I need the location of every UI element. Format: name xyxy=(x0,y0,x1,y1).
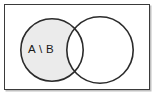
figure-frame: A \ B xyxy=(4,4,150,90)
venn-diagram-canvas: A \ B xyxy=(5,5,149,89)
label-a-minus-b: A \ B xyxy=(28,43,54,55)
venn-diagram-figure: A \ B xyxy=(0,0,156,97)
shaded-region-a-minus-b xyxy=(5,5,149,89)
